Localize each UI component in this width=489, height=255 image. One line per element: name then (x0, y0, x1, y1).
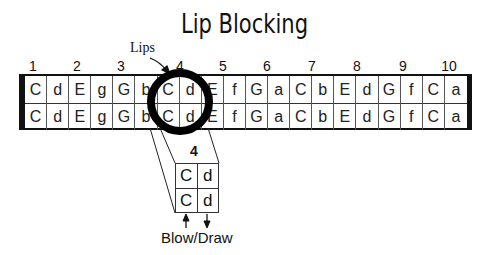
zoom-note-cell: C (176, 164, 198, 188)
zoom-detail-box: C d C d (175, 163, 219, 213)
zoom-blow-row: C d (176, 164, 218, 189)
zoom-note-cell: d (198, 164, 219, 188)
zoom-hole-label: 4 (190, 143, 198, 159)
diagram-overlay (0, 0, 489, 255)
draw-arrow-icon (204, 214, 210, 228)
lip-circle-icon (151, 73, 209, 131)
zoom-note-cell: d (198, 189, 219, 213)
blow-arrow-icon (183, 214, 189, 228)
lips-arrow-icon (150, 58, 170, 74)
zoom-note-cell: C (176, 189, 198, 213)
zoom-draw-row: C d (176, 189, 218, 213)
blow-draw-legend: Blow/Draw (161, 229, 233, 246)
